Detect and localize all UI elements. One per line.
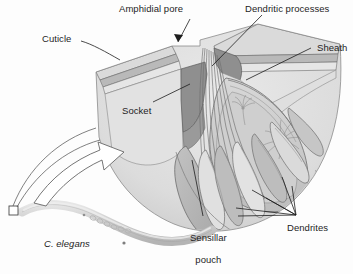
leader-socket [153,84,190,102]
label-socket: Socket [122,105,151,116]
leader-cuticle [81,41,120,60]
leader-sheath [246,48,311,80]
leader-dendrites-2 [266,198,296,215]
label-sensillar-pouch-line1: Sensillar [190,232,227,243]
label-sensillar-pouch-line2: pouch [195,254,221,265]
label-amphidial-pore: Amphidial pore [119,3,183,14]
label-dendrites: Dendrites [287,222,328,233]
leader-sensillar-pouch [192,160,203,216]
label-dendritic-processes: Dendritic processes [245,3,329,14]
label-c-elegans: C. elegans [44,238,90,249]
leader-dendrites-6 [238,215,296,216]
leader-dendrites-3 [282,177,296,215]
leader-dendritic-processes [212,15,262,66]
arrowhead-amphidial-pore [174,34,183,42]
label-cuticle: Cuticle [42,33,71,44]
figure-canvas: Cuticle Amphidial pore Dendritic process… [0,0,353,274]
leader-dendrites-5 [236,208,296,215]
label-sheath: Sheath [317,42,347,53]
label-sensillar-pouch: Sensillar pouch [175,221,231,274]
